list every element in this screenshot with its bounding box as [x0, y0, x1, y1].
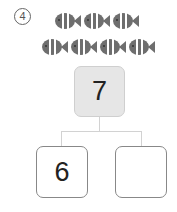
fish-icon — [41, 38, 69, 56]
whole-value: 7 — [92, 76, 107, 107]
problem-number: 4 — [14, 8, 31, 25]
fish-icon — [128, 38, 156, 56]
connector-horizontal — [61, 131, 142, 132]
fish-icon — [83, 12, 111, 30]
fish-icon — [54, 12, 82, 30]
fish-icon — [70, 38, 98, 56]
connector-vertical — [99, 117, 100, 131]
connector-left — [61, 131, 62, 146]
fish-icon — [99, 38, 127, 56]
fish-icon — [112, 12, 140, 30]
part-box-left: 6 — [36, 146, 88, 198]
problem-number-text: 4 — [19, 11, 25, 22]
connector-right — [141, 131, 142, 146]
part-box-right-answer[interactable] — [115, 146, 167, 198]
whole-box: 7 — [74, 66, 125, 117]
part-value-left: 6 — [54, 157, 69, 188]
